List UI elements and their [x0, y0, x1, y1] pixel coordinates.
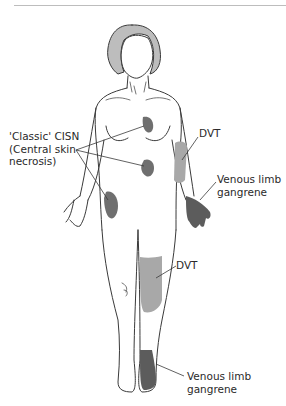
dvt-leg-region — [140, 256, 162, 313]
right-leg — [102, 230, 138, 392]
label-dvt-arm: DVT — [199, 127, 221, 140]
gangrene-hand-region — [186, 196, 211, 228]
face — [121, 35, 153, 78]
dvt-arm-region — [174, 142, 187, 183]
cisn-line3: necrosis) — [9, 155, 79, 168]
vlg-hand-line2: gangrene — [217, 186, 281, 199]
label-classic-cisn: 'Classic' CISN (Central skin necrosis) — [9, 130, 79, 168]
label-dvt-leg: DVT — [176, 259, 198, 272]
vlg-hand-line1: Venous limb — [217, 173, 281, 186]
gangrene-foot-region — [140, 350, 156, 390]
label-venous-limb-gangrene-foot: Venous limb gangrene — [187, 370, 251, 395]
vlg-foot-line1: Venous limb — [187, 370, 251, 383]
cisn-breast-region — [143, 117, 154, 133]
cisn-abdomen-region — [141, 159, 154, 176]
body-diagram — [0, 0, 286, 406]
cisn-line1: 'Classic' CISN — [9, 130, 79, 143]
label-venous-limb-gangrene-hand: Venous limb gangrene — [217, 173, 281, 198]
vlg-foot-line2: gangrene — [187, 383, 251, 396]
cisn-thigh-region — [104, 192, 118, 219]
cisn-line2: (Central skin — [9, 143, 79, 156]
right-hand — [64, 196, 88, 226]
